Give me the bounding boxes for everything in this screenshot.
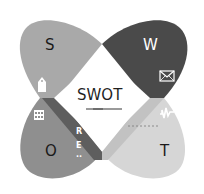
quadrant-label-w: W <box>143 38 158 53</box>
quadrant-label-s: S <box>45 38 55 53</box>
swot-diagram: SWOT S W O T R E .. <box>0 0 204 194</box>
title-underline <box>86 108 122 110</box>
diagram-title: SWOT <box>77 86 122 104</box>
band-dots: .. <box>76 150 82 159</box>
title-underline-accent <box>93 108 103 110</box>
quadrant-label-o: O <box>45 144 57 159</box>
quadrant-label-t: T <box>160 144 169 159</box>
band-letter-r: R <box>76 127 82 136</box>
band-letter-e: E <box>76 141 81 150</box>
calendar-icon <box>34 110 44 120</box>
